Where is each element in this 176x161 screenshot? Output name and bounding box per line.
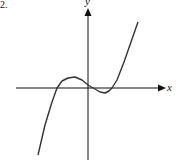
cubic-graph (0, 0, 176, 161)
problem-number: 2. (0, 0, 8, 10)
y-axis-arrow-icon (85, 8, 92, 16)
x-axis-label: x (167, 82, 172, 93)
x-axis-arrow-icon (158, 85, 166, 92)
y-axis-label: y (85, 0, 90, 7)
